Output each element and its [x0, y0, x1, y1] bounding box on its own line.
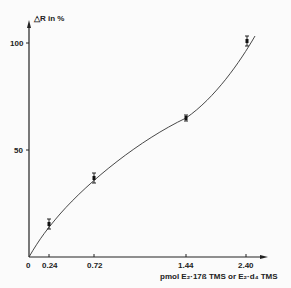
data-point	[184, 115, 188, 121]
data-point	[245, 36, 249, 46]
y-axis-label: △R in %	[33, 14, 64, 23]
x-tick-2.40: 2.40	[238, 261, 254, 270]
fit-curve	[29, 36, 255, 257]
x-tick-0: 0	[26, 261, 31, 270]
chart: 100 50 0 0.24 0.72 1.44 2.40 △R in % pmo…	[0, 0, 291, 288]
x-axis-arrow-icon	[260, 255, 268, 259]
chart-svg: 100 50 0 0.24 0.72 1.44 2.40 △R in % pmo…	[0, 0, 291, 288]
data-point	[47, 219, 51, 229]
y-tick-50: 50	[14, 146, 23, 155]
y-axis-arrow-icon	[27, 20, 31, 28]
x-tick-1.44: 1.44	[178, 261, 194, 270]
y-tick-100: 100	[10, 39, 24, 48]
x-axis-label: pmol E₂·17ß TMS or E₂·d₄ TMS	[160, 272, 278, 281]
x-tick-0.72: 0.72	[87, 261, 103, 270]
x-tick-0.24: 0.24	[42, 261, 58, 270]
